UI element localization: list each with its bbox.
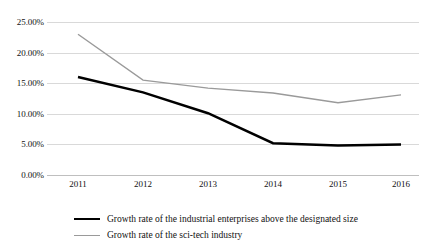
plot-area xyxy=(47,22,419,175)
chart-legend: Growth rate of the industrial enterprise… xyxy=(74,211,414,243)
series-container xyxy=(47,22,419,175)
y-tick-label: 10.00% xyxy=(0,109,44,119)
y-tick-label: 0.00% xyxy=(0,170,44,180)
y-tick-label: 25.00% xyxy=(0,17,44,27)
x-tick-label: 2016 xyxy=(376,178,426,190)
x-tick-label: 2011 xyxy=(53,178,103,190)
y-tick-label: 15.00% xyxy=(0,78,44,88)
series-line-sci-tech-industry xyxy=(78,34,401,103)
x-tick-label: 2013 xyxy=(183,178,233,190)
y-axis: 25.00% 20.00% 15.00% 10.00% 5.00% 0.00% xyxy=(0,0,44,200)
x-axis-line xyxy=(47,175,419,176)
y-tick-label: 20.00% xyxy=(0,48,44,58)
legend-item-label: Growth rate of the industrial enterprise… xyxy=(107,213,358,225)
y-tick-label: 5.00% xyxy=(0,139,44,149)
legend-line-swatch-icon xyxy=(74,235,100,236)
x-tick-label: 2012 xyxy=(118,178,168,190)
legend-line-swatch-icon xyxy=(74,218,100,220)
line-chart: 25.00% 20.00% 15.00% 10.00% 5.00% 0.00% … xyxy=(0,0,427,247)
series-line-industrial-enterprises xyxy=(78,77,401,146)
legend-item-industrial-enterprises[interactable]: Growth rate of the industrial enterprise… xyxy=(74,211,414,227)
legend-item-sci-tech-industry[interactable]: Growth rate of the sci-tech industry xyxy=(74,227,414,243)
legend-item-label: Growth rate of the sci-tech industry xyxy=(107,229,242,241)
x-tick-label: 2014 xyxy=(248,178,298,190)
x-tick-label: 2015 xyxy=(313,178,363,190)
x-axis: 2011 2012 2013 2014 2015 2016 xyxy=(47,178,419,192)
